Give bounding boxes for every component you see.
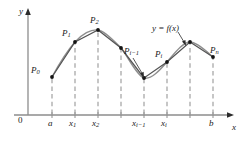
origin-label: 0 bbox=[18, 116, 23, 125]
xtick-label-xi: xi bbox=[161, 119, 167, 129]
label-Pn: Pn bbox=[210, 46, 219, 56]
label-P2: P2 bbox=[90, 16, 99, 26]
x-axis bbox=[14, 112, 234, 118]
label-P1: P1 bbox=[62, 29, 71, 39]
point-Pn bbox=[211, 55, 215, 59]
point-P0 bbox=[50, 75, 54, 79]
y-axis-label: y bbox=[19, 7, 23, 16]
xtick-label-x1: x1 bbox=[69, 119, 76, 129]
point-mid bbox=[119, 46, 123, 50]
leader-function-label bbox=[178, 32, 186, 46]
point-peak bbox=[188, 40, 192, 44]
label-Pi: Pi bbox=[155, 50, 162, 60]
xtick-label-xi-1: xi−1 bbox=[132, 119, 145, 129]
function-label: y = f(x) bbox=[152, 24, 179, 33]
x-axis-label: x bbox=[232, 123, 236, 132]
label-Pi-1: Pi−1 bbox=[124, 47, 139, 57]
point-P2 bbox=[96, 28, 100, 32]
arc-length-figure: y x 0 y = f(x) P0 P1 P2 Pi−1 Pi Pn a x1 … bbox=[0, 0, 246, 148]
y-axis bbox=[25, 8, 31, 115]
point-P1 bbox=[73, 40, 77, 44]
label-P0: P0 bbox=[31, 66, 40, 76]
xtick-label-b: b bbox=[209, 119, 214, 129]
xtick-label-a: a bbox=[48, 119, 53, 129]
point-Pi bbox=[165, 60, 169, 64]
xtick-label-x2: x2 bbox=[92, 119, 99, 129]
